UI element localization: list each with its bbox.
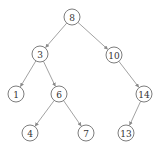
tree-node-6: 6 [51, 86, 67, 102]
node-label: 7 [83, 129, 89, 139]
node-label: 14 [138, 90, 150, 100]
tree-node-4: 4 [22, 125, 38, 141]
tree-node-7: 7 [78, 125, 94, 141]
node-label: 3 [37, 50, 43, 60]
tree-node-1: 1 [8, 86, 24, 102]
tree-node-13: 13 [118, 125, 134, 141]
nodes-layer: 831016144713 [8, 9, 152, 141]
edge-8-to-3 [46, 23, 67, 48]
tree-node-8: 8 [64, 9, 80, 25]
tree-node-10: 10 [106, 47, 122, 63]
node-label: 8 [69, 13, 75, 23]
edge-10-to-14 [119, 61, 139, 87]
node-label: 6 [56, 90, 62, 100]
edges-layer [20, 22, 140, 126]
edge-8-to-10 [78, 22, 108, 49]
edge-3-to-6 [43, 61, 55, 86]
tree-node-14: 14 [136, 86, 152, 102]
edge-6-to-7 [64, 101, 82, 126]
node-label: 10 [108, 51, 120, 61]
node-label: 13 [120, 129, 132, 139]
tree-node-3: 3 [32, 46, 48, 62]
node-label: 4 [27, 129, 33, 139]
edge-3-to-1 [20, 61, 36, 87]
node-label: 1 [13, 90, 19, 100]
binary-search-tree-diagram: 831016144713 [0, 0, 162, 151]
edge-6-to-4 [35, 100, 54, 126]
edge-14-to-13 [130, 101, 141, 125]
